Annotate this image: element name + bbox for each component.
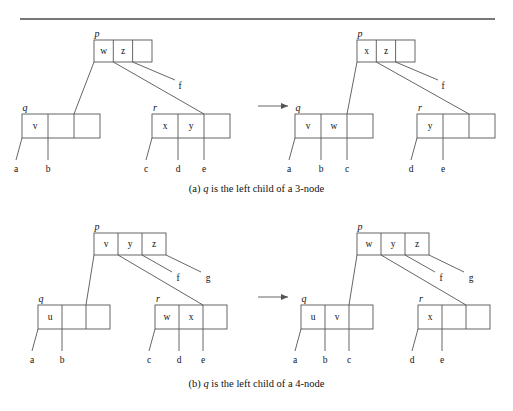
pointer-label-p: p — [94, 221, 100, 232]
caption-variable: q — [203, 378, 208, 389]
node-key: w — [100, 46, 107, 56]
panel-a-before-tree: w z p v q x y — [14, 28, 230, 174]
leaf-label: d — [409, 164, 414, 174]
pointer-label-r: r — [153, 102, 157, 113]
subtree-label-f: f — [176, 273, 180, 283]
edge-parent-to-subtree-g — [429, 255, 464, 272]
leaf-label: a — [293, 355, 298, 365]
pointer-label-p: p — [94, 28, 100, 39]
pointer-label-q: q — [302, 293, 307, 304]
leaf-label: c — [347, 355, 351, 365]
node-key: y — [189, 121, 194, 131]
edge-parent-to-right — [113, 62, 204, 114]
edge-parent-to-right — [118, 255, 203, 305]
panel-b-before-parent-node: v y z p — [94, 221, 167, 255]
edge-parent-to-subtree-f — [396, 62, 438, 80]
panel-a-after-left-node: v w q — [295, 102, 373, 138]
panel-a-before-left-node: v q — [22, 102, 100, 138]
node-key: v — [104, 239, 109, 249]
leaf-label: e — [202, 164, 206, 174]
leaf-label: b — [60, 355, 65, 365]
node-key: x — [163, 121, 168, 131]
edge-parent-to-left — [74, 62, 94, 114]
leaf-label: a — [14, 164, 19, 174]
node-key: v — [335, 312, 340, 322]
panel-b-before-left-node: u q — [38, 293, 110, 329]
panel-b-after-parent-node: w y z p — [357, 221, 430, 255]
edge-parent-to-right — [381, 255, 466, 305]
caption-variable: q — [203, 183, 208, 194]
node-key: z — [415, 239, 419, 249]
edge-parent-to-subtree-f — [142, 255, 172, 272]
node-key: z — [121, 46, 125, 56]
edge-parent-to-right — [376, 62, 469, 114]
leaf-label: b — [323, 355, 328, 365]
node-key: u — [311, 312, 316, 322]
panel-a-after-parent-node: x z p — [357, 28, 416, 62]
panel-b-transform-arrow — [258, 294, 288, 300]
leaf-stem — [32, 329, 38, 351]
node-key: z — [384, 46, 388, 56]
leaf-stem — [149, 329, 155, 351]
leaf-label: d — [410, 355, 415, 365]
node-key: v — [306, 121, 311, 131]
edge-parent-to-subtree-g — [166, 255, 201, 272]
leaf-label: a — [30, 355, 35, 365]
leaf-label: c — [345, 164, 349, 174]
leaf-label: b — [319, 164, 324, 174]
node-key: x — [364, 46, 369, 56]
caption-prefix: (b) — [189, 378, 201, 389]
pointer-label-q: q — [39, 293, 44, 304]
subtree-label-g: g — [469, 273, 474, 283]
subtree-label-f: f — [439, 273, 443, 283]
edge-parent-to-subtree-f — [405, 255, 435, 272]
caption-panel-a: (a) q is the left child of a 3-node — [0, 183, 513, 194]
subtree-label-f: f — [178, 81, 182, 91]
leaf-label: e — [201, 355, 205, 365]
node-key: x — [428, 312, 433, 322]
pointer-label-r: r — [156, 293, 160, 304]
subtree-label-g: g — [206, 273, 211, 283]
btree-transformation-diagram: w z p v q x y — [0, 0, 513, 411]
panel-b-before-tree: v y z p u q w x — [30, 221, 227, 365]
pointer-label-q: q — [23, 102, 28, 113]
pointer-label-q: q — [296, 102, 301, 113]
leaf-stem — [411, 138, 417, 160]
node-key: w — [164, 312, 171, 322]
caption-text: is the left child of a 3-node — [211, 183, 324, 194]
panel-a-before-right-node: x y r — [152, 102, 230, 138]
edge-parent-to-left — [86, 255, 94, 305]
edge-parent-to-left — [349, 255, 357, 305]
leaf-label: d — [177, 355, 182, 365]
pointer-label-p: p — [357, 28, 363, 39]
leaf-label: e — [441, 164, 445, 174]
leaf-label: e — [440, 355, 444, 365]
panel-a-after-right-node: y r — [417, 102, 495, 138]
leaf-label: c — [147, 355, 151, 365]
leaf-stem — [16, 138, 22, 160]
panel-a-transform-arrow — [258, 103, 288, 109]
leaf-stem — [146, 138, 152, 160]
leaf-label: a — [287, 164, 292, 174]
leaf-stem — [289, 138, 295, 160]
node-key: z — [152, 239, 156, 249]
subtree-label-f: f — [441, 81, 445, 91]
figure-root: w z p v q x y — [0, 0, 513, 411]
caption-text: is the left child of a 4-node — [211, 378, 324, 389]
node-key: x — [189, 312, 194, 322]
edge-parent-to-subtree-f — [133, 62, 175, 80]
node-key: w — [331, 121, 338, 131]
pointer-label-r: r — [419, 293, 423, 304]
pointer-label-r: r — [418, 102, 422, 113]
panel-b-after-left-node: u v q — [301, 293, 373, 329]
node-key: w — [366, 239, 373, 249]
node-key: y — [428, 121, 433, 131]
node-key: y — [128, 239, 133, 249]
leaf-label: d — [176, 164, 181, 174]
node-key: v — [33, 121, 38, 131]
edge-parent-to-left — [347, 62, 357, 114]
caption-prefix: (a) — [189, 183, 201, 194]
node-key: y — [391, 239, 396, 249]
panel-a-before-parent-node: w z p — [94, 28, 153, 62]
node-key: u — [48, 312, 53, 322]
